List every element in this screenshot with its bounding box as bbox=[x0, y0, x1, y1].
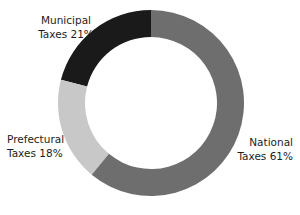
slice-label-municipal-line2: Taxes 21% bbox=[14, 28, 118, 42]
slice-label-national-line2: Taxes 61% bbox=[237, 150, 293, 164]
slice-label-municipal-taxes: Municipal Taxes 21% bbox=[14, 14, 118, 41]
slice-label-prefectural-taxes: Prefectural Taxes 18% bbox=[7, 133, 64, 160]
donut-slice-prefectural-taxes[interactable] bbox=[58, 80, 109, 175]
slice-label-national-line1: National bbox=[237, 136, 293, 150]
slice-label-municipal-line1: Municipal bbox=[14, 14, 118, 28]
slice-label-prefectural-line1: Prefectural bbox=[7, 133, 64, 147]
slice-label-prefectural-line2: Taxes 18% bbox=[7, 147, 64, 161]
chart-page: Municipal Taxes 21% Prefectural Taxes 18… bbox=[0, 0, 300, 215]
slice-label-national-taxes: National Taxes 61% bbox=[237, 136, 293, 163]
